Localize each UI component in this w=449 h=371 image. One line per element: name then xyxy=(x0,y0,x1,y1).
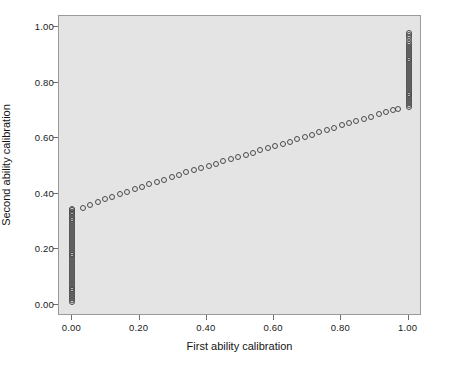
data-point xyxy=(265,145,271,151)
data-point xyxy=(124,189,130,195)
y-tick-label: 0.00 xyxy=(35,298,54,309)
data-point xyxy=(339,122,345,128)
x-tick-label: 0.00 xyxy=(62,322,81,333)
data-point xyxy=(220,158,226,164)
data-point-layer xyxy=(59,16,420,314)
x-axis: 0.000.200.400.600.801.00 xyxy=(58,315,421,339)
x-tick-mark xyxy=(139,315,140,320)
x-tick-mark xyxy=(408,315,409,320)
x-tick-label: 0.20 xyxy=(129,322,148,333)
y-tick-label: 0.80 xyxy=(35,76,54,87)
x-tick-label: 0.80 xyxy=(331,322,350,333)
x-axis-title: First ability calibration xyxy=(58,340,421,352)
x-tick-mark xyxy=(273,315,274,320)
data-point xyxy=(183,169,189,175)
data-point xyxy=(87,202,93,208)
data-point xyxy=(302,134,308,140)
x-tick-label: 0.40 xyxy=(196,322,215,333)
data-point xyxy=(346,120,352,126)
data-point xyxy=(280,141,286,147)
data-point xyxy=(272,143,278,149)
data-point xyxy=(395,106,401,112)
data-point xyxy=(368,114,374,120)
data-point xyxy=(324,127,330,133)
data-point xyxy=(154,179,160,185)
y-tick-label: 0.20 xyxy=(35,243,54,254)
x-tick-mark xyxy=(206,315,207,320)
data-point xyxy=(146,181,152,187)
data-point xyxy=(117,191,123,197)
y-tick-label: 1.00 xyxy=(35,21,54,32)
data-point xyxy=(331,125,337,131)
data-point xyxy=(383,109,389,115)
data-point xyxy=(294,136,300,142)
data-point xyxy=(228,156,234,162)
data-point xyxy=(243,152,249,158)
data-point xyxy=(176,172,182,178)
data-point xyxy=(169,174,175,180)
data-point xyxy=(235,154,241,160)
x-tick-mark xyxy=(71,315,72,320)
data-point xyxy=(257,147,263,153)
y-tick-label: 0.60 xyxy=(35,132,54,143)
x-tick-label: 1.00 xyxy=(398,322,417,333)
data-point xyxy=(80,205,86,211)
plot-area xyxy=(58,15,421,315)
data-point xyxy=(191,167,197,173)
data-point xyxy=(287,139,293,145)
data-point xyxy=(353,118,359,124)
data-point xyxy=(406,30,412,36)
data-point xyxy=(361,116,367,122)
data-point xyxy=(309,132,315,138)
data-point xyxy=(316,129,322,135)
data-point xyxy=(213,161,219,167)
scatter-plot-figure: 0.000.200.400.600.801.00 0.000.200.400.6… xyxy=(0,0,449,371)
data-point xyxy=(206,163,212,169)
data-point xyxy=(139,184,145,190)
data-point xyxy=(198,165,204,171)
data-point xyxy=(109,194,115,200)
data-point xyxy=(102,196,108,202)
x-tick-label: 0.60 xyxy=(263,322,282,333)
data-point xyxy=(250,150,256,156)
x-tick-mark xyxy=(340,315,341,320)
y-axis-title: Second ability calibration xyxy=(0,15,14,315)
y-tick-label: 0.40 xyxy=(35,187,54,198)
data-point xyxy=(95,199,101,205)
data-point xyxy=(161,177,167,183)
data-point xyxy=(132,186,138,192)
data-point xyxy=(376,111,382,117)
